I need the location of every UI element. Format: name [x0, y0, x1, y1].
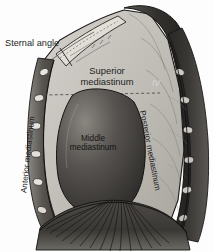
heart-silhouette: [57, 89, 146, 216]
label-superior-mediastinum: Superior mediastinum: [64, 66, 150, 87]
label-superior-line2: mediastinum: [64, 77, 150, 88]
label-middle-line1: Middle: [56, 134, 130, 143]
label-middle-mediastinum: Middle mediastinum: [56, 134, 130, 152]
rib-oval-r4: [184, 156, 194, 163]
label-middle-line2: mediastinum: [56, 143, 130, 152]
heart-middle-mediastinum: [57, 89, 146, 216]
label-sternal-angle: Sternal angle: [5, 38, 59, 48]
label-vertebra-iv: IV: [152, 79, 160, 88]
anatomical-figure: Sternal angle Superior mediastinum Middl…: [0, 0, 213, 252]
label-superior-line1: Superior: [64, 66, 150, 77]
